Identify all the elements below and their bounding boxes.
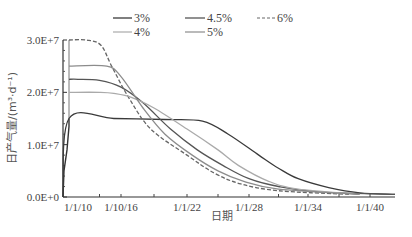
x-tick-label: 1/10/16 bbox=[104, 201, 138, 213]
x-tick-label: 1/1/40 bbox=[356, 201, 385, 213]
series-line-4pct bbox=[69, 92, 360, 194]
legend-label: 3% bbox=[134, 11, 150, 25]
ramp-up-line bbox=[63, 119, 69, 198]
legend-label: 4% bbox=[134, 25, 150, 39]
x-tick-label: 1/1/34 bbox=[294, 201, 323, 213]
y-tick-label: 2.0E+7 bbox=[27, 86, 60, 98]
y-tick-label: 0.0E+0 bbox=[27, 191, 60, 203]
y-tick-label: 3.0E+7 bbox=[27, 34, 60, 46]
x-tick-label: 1/1/10 bbox=[64, 201, 93, 213]
y-tick-label: 1.0E+7 bbox=[27, 139, 60, 151]
series-line-6pct bbox=[69, 40, 349, 195]
legend-label: 4.5% bbox=[207, 11, 232, 25]
legend-item-3: 3% bbox=[113, 11, 150, 25]
x-tick-label: 1/1/28 bbox=[235, 201, 264, 213]
chart-root: 3% 4.5% 6% 4% 5% 0.0E+01.0E+72.0E+73.0 bbox=[0, 0, 412, 237]
legend: 3% 4.5% 6% 4% 5% bbox=[113, 11, 293, 39]
legend-label: 5% bbox=[207, 25, 223, 39]
series-line-5pct bbox=[69, 65, 360, 194]
legend-item-4: 4% bbox=[113, 25, 150, 39]
line-chart: 3% 4.5% 6% 4% 5% 0.0E+01.0E+72.0E+73.0 bbox=[0, 0, 412, 237]
legend-item-5: 5% bbox=[185, 25, 223, 39]
y-axis-title: 日产气量/(m³·d⁻¹) bbox=[5, 72, 19, 164]
x-axis-title: 日期 bbox=[211, 210, 233, 223]
series-lines bbox=[63, 40, 395, 197]
x-tick-label: 1/1/22 bbox=[173, 201, 201, 213]
legend-item-4-5: 4.5% bbox=[185, 11, 232, 25]
legend-item-6: 6% bbox=[257, 11, 293, 25]
series-line-3pct bbox=[63, 113, 395, 197]
legend-label: 6% bbox=[277, 11, 293, 25]
